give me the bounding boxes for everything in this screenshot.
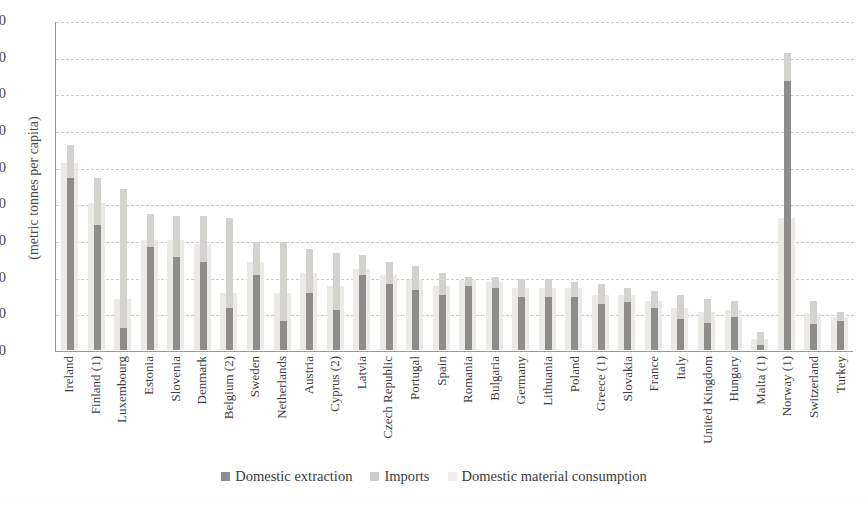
bar-slot [694, 22, 721, 350]
bar-domestic-extraction [94, 225, 101, 350]
x-label-slot: Switzerland [801, 354, 828, 464]
x-axis-tick-label: Slovenia [168, 356, 184, 402]
x-label-slot: Denmark [189, 354, 216, 464]
x-label-slot: Norway (1) [774, 354, 801, 464]
legend-item[interactable]: Imports [370, 468, 429, 485]
x-label-slot: Portugal [402, 354, 429, 464]
legend-label: Domestic extraction [235, 468, 352, 485]
x-label-slot: United Kingdom [694, 354, 721, 464]
bar-slot [137, 22, 164, 350]
legend-swatch-icon [370, 472, 379, 481]
x-axis-tick-label: Belgium (2) [221, 356, 237, 419]
x-axis-tick-label: France [646, 356, 662, 391]
x-axis-tick-label: Estonia [141, 356, 157, 395]
x-axis-labels: IrelandFinland (1)LuxembourgEstoniaSlove… [56, 354, 854, 464]
x-label-slot: Italy [668, 354, 695, 464]
x-axis-tick-label: Bulgaria [487, 356, 503, 401]
x-axis-tick-label: Portugal [407, 356, 423, 400]
x-axis-tick-label: Spain [434, 356, 450, 386]
x-label-slot: Latvia [349, 354, 376, 464]
bar-domestic-extraction [306, 293, 313, 350]
x-axis-tick-label: United Kingdom [700, 356, 716, 444]
bar-domestic-extraction [412, 290, 419, 351]
x-label-slot: Netherlands [269, 354, 296, 464]
bar-domestic-extraction [784, 81, 791, 351]
x-label-slot: Estonia [136, 354, 163, 464]
chart-page: (metric tonnes per capita) 0102030405060… [0, 0, 868, 506]
x-axis-tick-label: Netherlands [274, 356, 290, 419]
bar-slot [508, 22, 535, 350]
x-axis-tick-label: Czech Republic [380, 356, 396, 439]
bar-domestic-extraction [359, 275, 366, 350]
legend-swatch-icon [448, 472, 457, 481]
x-label-slot: Slovenia [162, 354, 189, 464]
y-axis-tick-label: 10 [0, 305, 6, 322]
bar-slot [163, 22, 190, 350]
x-axis-tick-label: Greece (1) [593, 356, 609, 411]
bar-domestic-extraction [677, 319, 684, 350]
bar-slot [773, 22, 800, 350]
bar-domestic-extraction [545, 297, 552, 350]
x-axis-tick-label: Luxembourg [114, 356, 130, 423]
legend-item[interactable]: Domestic material consumption [448, 468, 647, 485]
bar-slot [216, 22, 243, 350]
y-axis-tick-label: 20 [0, 269, 6, 286]
bar-domestic-extraction [333, 310, 340, 350]
x-label-slot: Austria [295, 354, 322, 464]
bar-domestic-extraction [518, 297, 525, 350]
legend-item[interactable]: Domestic extraction [221, 468, 352, 485]
bar-domestic-extraction [465, 286, 472, 350]
y-axis-tick-label: 80 [0, 49, 6, 66]
bar-slot [482, 22, 509, 350]
chart-legend: Domestic extractionImportsDomestic mater… [0, 468, 868, 485]
x-label-slot: Bulgaria [482, 354, 509, 464]
bar-slot [296, 22, 323, 350]
bar-slot [614, 22, 641, 350]
x-axis-tick-label: Hungary [726, 356, 742, 402]
x-label-slot: Turkey [827, 354, 854, 464]
plot-area [55, 22, 853, 352]
x-axis-tick-label: Sweden [247, 356, 263, 397]
bar-slot [800, 22, 827, 350]
bar-slot [349, 22, 376, 350]
x-axis-tick-label: Turkey [833, 356, 849, 393]
x-label-slot: France [641, 354, 668, 464]
bar-domestic-extraction [147, 247, 154, 350]
x-axis-tick-label: Germany [513, 356, 529, 404]
bar-slot [322, 22, 349, 350]
x-label-slot: Hungary [721, 354, 748, 464]
y-axis-tick-label: 60 [0, 122, 6, 139]
bar-slot [826, 22, 853, 350]
bar-domestic-extraction [492, 288, 499, 350]
bar-domestic-extraction [386, 284, 393, 350]
bar-domestic-extraction [200, 262, 207, 350]
x-label-slot: Czech Republic [375, 354, 402, 464]
bar-slot [667, 22, 694, 350]
x-axis-tick-label: Lithuania [540, 356, 556, 406]
x-axis-tick-label: Latvia [354, 356, 370, 389]
bar-slot [269, 22, 296, 350]
bar-slot [588, 22, 615, 350]
y-axis-tick-label: 40 [0, 195, 6, 212]
bar-slot [375, 22, 402, 350]
x-label-slot: Greece (1) [588, 354, 615, 464]
x-axis-tick-label: Norway (1) [779, 356, 795, 416]
x-label-slot: Malta (1) [747, 354, 774, 464]
y-axis-tick-label: 30 [0, 232, 6, 249]
bar-domestic-extraction [67, 178, 74, 350]
x-label-slot: Sweden [242, 354, 269, 464]
bar-slot [57, 22, 84, 350]
legend-label: Imports [384, 468, 429, 485]
bar-domestic-extraction [598, 304, 605, 350]
x-axis-tick-label: Austria [301, 356, 317, 394]
x-label-slot: Germany [508, 354, 535, 464]
bar-domestic-extraction [731, 317, 738, 350]
bar-domestic-extraction [280, 321, 287, 350]
bar-slot [641, 22, 668, 350]
x-axis-tick-label: Denmark [194, 356, 210, 404]
bar-slot [243, 22, 270, 350]
bar-domestic-extraction [120, 328, 127, 350]
x-axis-tick-label: Finland (1) [88, 356, 104, 414]
x-label-slot: Luxembourg [109, 354, 136, 464]
x-label-slot: Spain [428, 354, 455, 464]
